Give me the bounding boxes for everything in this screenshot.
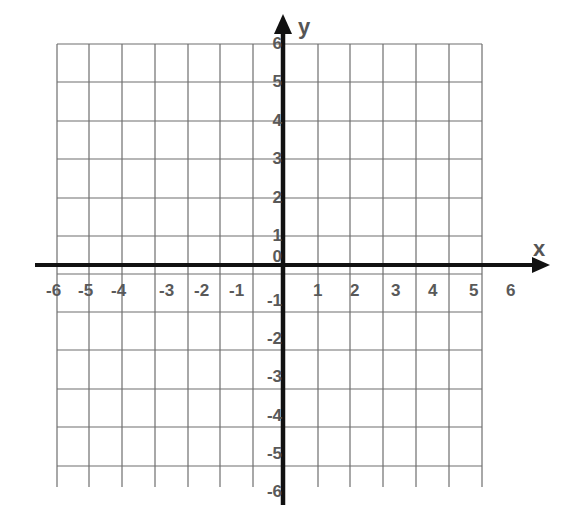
y-tick-label: 2: [273, 189, 282, 206]
y-tick-label: -3: [267, 368, 282, 385]
x-tick-label: -3: [159, 282, 174, 299]
x-tick-label: -4: [111, 282, 126, 299]
y-tick-label: -5: [267, 445, 282, 462]
y-tick-label: -1: [267, 292, 282, 309]
y-tick-label: -6: [267, 483, 282, 500]
x-tick-label: -1: [229, 282, 244, 299]
y-tick-label: 6: [273, 35, 282, 52]
y-tick-label: 4: [273, 112, 282, 129]
x-tick-label: 2: [350, 282, 359, 299]
x-tick-label: 4: [428, 282, 437, 299]
y-tick-label: 0: [273, 248, 282, 265]
y-axis-label: y: [298, 16, 310, 38]
x-tick-label: -2: [194, 282, 209, 299]
x-tick-label: 1: [313, 282, 322, 299]
x-tick-label: 5: [469, 282, 478, 299]
x-tick-label: -5: [78, 282, 93, 299]
y-tick-label: -2: [267, 330, 282, 347]
y-tick-label: 5: [273, 73, 282, 90]
coordinate-plane: [0, 0, 580, 520]
x-tick-label: 3: [391, 282, 400, 299]
x-tick-label: -6: [46, 282, 61, 299]
y-axis-arrow-icon: [274, 14, 292, 34]
y-tick-label: 3: [273, 150, 282, 167]
y-tick-label: 1: [273, 227, 282, 244]
x-axis-label: x: [533, 238, 545, 260]
axes: [35, 14, 550, 505]
y-tick-label: -4: [267, 407, 282, 424]
x-tick-label: 6: [506, 282, 515, 299]
